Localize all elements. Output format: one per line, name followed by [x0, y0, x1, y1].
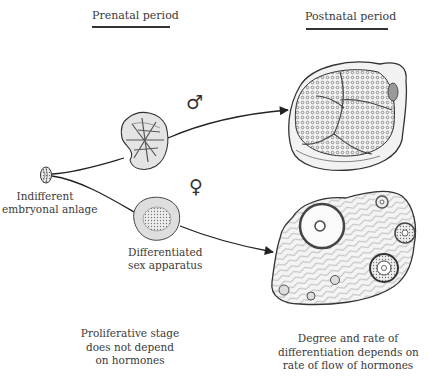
- postnatal-ovary-icon: [272, 192, 416, 305]
- differentiated-line-1: Differentiated: [128, 246, 204, 259]
- indifferent-anlage-label: Indifferent embryonal anlage: [2, 190, 88, 216]
- caption-left-line-2: does not depend: [70, 341, 190, 355]
- male-development-arrow: [168, 110, 288, 138]
- indifferent-line-1: Indifferent: [2, 190, 88, 203]
- postnatal-testis-icon: [289, 62, 407, 170]
- differentiated-line-2: sex apparatus: [128, 259, 204, 272]
- caption-right-line-1: Degree and rate of: [278, 332, 418, 346]
- proliferative-stage-caption: Proliferative stage does not depend on h…: [70, 327, 190, 368]
- embryonal-anlage-icon: [41, 167, 52, 183]
- caption-left-line-1: Proliferative stage: [70, 327, 190, 341]
- caption-right-line-2: differentiation depends on: [278, 346, 418, 360]
- female-symbol-icon: ♀: [189, 177, 203, 196]
- diagram-canvas: [0, 0, 428, 378]
- caption-right-line-3: rate of flow of hormones: [278, 359, 418, 373]
- differentiated-apparatus-label: Differentiated sex apparatus: [128, 246, 204, 272]
- caption-left-line-3: on hormones: [70, 354, 190, 368]
- prenatal-testis-icon: [121, 112, 168, 169]
- branch-to-male-line: [52, 158, 124, 174]
- differentiation-caption: Degree and rate of differentiation depen…: [278, 332, 418, 373]
- prenatal-ovary-icon: [134, 197, 180, 240]
- indifferent-line-2: embryonal anlage: [2, 203, 88, 216]
- male-symbol-icon: ♂: [186, 93, 203, 112]
